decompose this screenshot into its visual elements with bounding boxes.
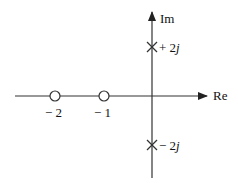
zero-marker-minus-1: [99, 91, 109, 101]
zero-label-minus-2: − 2: [45, 105, 62, 120]
pole-label-plus-2j: + 2j: [159, 40, 180, 55]
zero-marker-minus-2: [50, 91, 60, 101]
pole-label-minus-2j: − 2j: [159, 138, 180, 153]
real-axis-label: Re: [213, 88, 228, 103]
zero-label-minus-1: − 1: [94, 105, 111, 120]
imag-axis-label: Im: [160, 11, 174, 26]
pole-zero-plot: Re Im − 2 − 1 + 2j − 2j: [0, 0, 238, 183]
